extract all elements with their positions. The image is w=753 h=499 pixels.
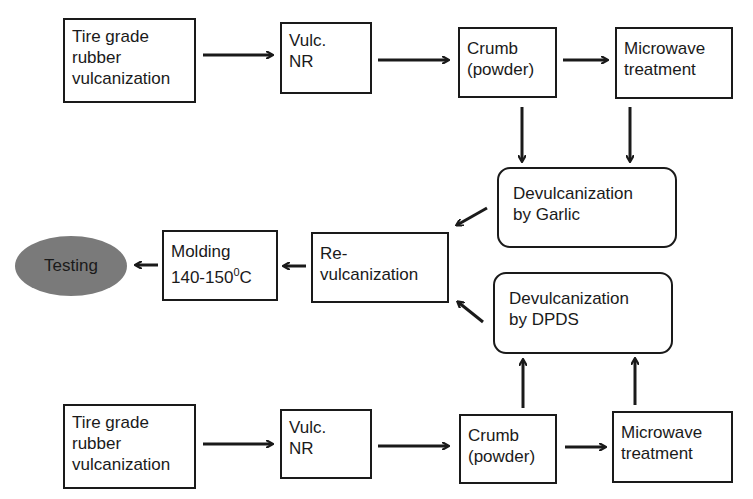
node-testing: Testing	[15, 236, 127, 296]
molding-temp: 140-150	[171, 268, 233, 287]
node-bottom-tire-grade-rubber-vulcanization: Tire grade rubber vulcanization	[63, 404, 196, 489]
molding-unit: C	[240, 268, 252, 287]
testing-label: Testing	[44, 256, 98, 276]
node-bottom-vulc-nr: Vulc. NR	[280, 409, 372, 479]
node-devulcanization-by-dpds: Devulcanization by DPDS	[493, 272, 673, 354]
node-bottom-crumb-powder: Crumb (powder)	[459, 414, 557, 484]
arrow-dpds-to-revulc	[458, 302, 483, 322]
node-top-tire-grade-rubber-vulcanization: Tire grade rubber vulcanization	[63, 18, 196, 103]
node-top-vulc-nr: Vulc. NR	[280, 22, 372, 94]
node-devulcanization-by-garlic: Devulcanization by Garlic	[497, 167, 677, 248]
node-top-microwave-treatment: Microwave treatment	[615, 27, 733, 99]
node-top-crumb-powder: Crumb (powder)	[458, 27, 557, 98]
node-molding: Molding140-1500C	[162, 230, 278, 301]
arrow-garlic-to-revulc	[457, 208, 487, 225]
node-bottom-microwave-treatment: Microwave treatment	[612, 411, 733, 483]
molding-label: Molding	[171, 242, 231, 261]
node-re-vulcanization: Re- vulcanization	[311, 232, 449, 303]
